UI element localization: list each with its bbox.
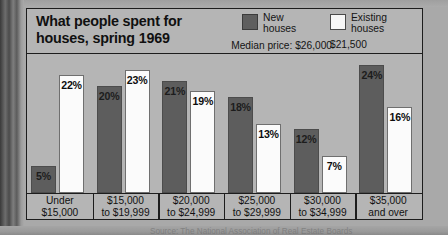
scan-edge-top xyxy=(0,0,448,7)
legend-existing-line-2: houses xyxy=(351,23,384,34)
legend-label-new: New houses xyxy=(263,12,296,35)
category-label-line-2: to $24,999 xyxy=(158,207,224,219)
category-label-line-2: to $29,999 xyxy=(224,207,290,219)
category-separator xyxy=(93,194,94,220)
category-label: $25,000to $29,999 xyxy=(224,194,290,220)
plot-area: 5%22%20%23%21%19%18%13%12%7%24%16% xyxy=(27,54,422,193)
median-price-existing: $21,500 xyxy=(330,39,367,50)
category-label-line-1: $25,000 xyxy=(238,195,275,206)
category-label-line-1: Under xyxy=(46,195,74,206)
chart-header: What people spent for houses, spring 196… xyxy=(27,9,422,54)
bar-group: 21%19% xyxy=(158,54,224,193)
category-label-line-1: $35,000 xyxy=(370,195,407,206)
scan-edge-left xyxy=(0,0,24,235)
bar-group: 24%16% xyxy=(355,54,421,193)
source-note: Source: The National Association of Real… xyxy=(150,227,446,235)
bar-value-label: 22% xyxy=(60,79,83,91)
bar-value-label: 12% xyxy=(295,133,318,145)
bar-value-label: 5% xyxy=(32,170,55,182)
bar-group: 20%23% xyxy=(93,54,159,193)
legend-existing-line-1: Existing xyxy=(351,12,387,23)
chart-legend: New houses Median price: $26,000 Existin… xyxy=(242,12,418,52)
bar: 20% xyxy=(97,86,122,193)
legend-new-line-2: houses xyxy=(263,23,296,34)
bar: 5% xyxy=(31,166,56,193)
chart-frame: What people spent for houses, spring 196… xyxy=(26,8,423,220)
bar-value-label: 24% xyxy=(360,69,383,81)
category-label: Under$15,000 xyxy=(27,194,93,220)
bar-value-label: 18% xyxy=(229,101,252,113)
category-label-line-1: $20,000 xyxy=(173,195,210,206)
legend-new-line-1: New xyxy=(263,12,284,23)
category-label-line-2: and over xyxy=(355,207,421,219)
bar-value-label: 19% xyxy=(191,95,214,107)
legend-label-existing: Existing houses xyxy=(351,12,387,35)
category-label: $30,000to $34,999 xyxy=(290,194,356,220)
category-separator xyxy=(290,194,291,220)
category-label-line-2: to $19,999 xyxy=(93,207,159,219)
bar: 18% xyxy=(228,97,253,193)
category-label: $20,000to $24,999 xyxy=(158,194,224,220)
legend-swatch-new-icon xyxy=(242,14,258,30)
bar-value-label: 23% xyxy=(126,74,149,86)
legend-swatch-existing-icon xyxy=(330,14,346,30)
bar-value-label: 21% xyxy=(163,85,186,97)
bar: 23% xyxy=(125,70,150,193)
bar: 24% xyxy=(359,65,384,193)
bar-value-label: 20% xyxy=(98,90,121,102)
title-line-1: What people spent for xyxy=(36,13,182,29)
category-separator xyxy=(224,194,225,220)
bar: 13% xyxy=(256,124,281,194)
category-label: $35,000and over xyxy=(355,194,421,220)
category-axis: Under$15,000$15,000to $19,999$20,000to $… xyxy=(27,193,422,219)
bar-group: 18%13% xyxy=(224,54,290,193)
category-separator xyxy=(355,194,356,220)
scanned-page: What people spent for houses, spring 196… xyxy=(0,0,448,235)
bar-group: 12%7% xyxy=(290,54,356,193)
bar: 7% xyxy=(322,156,347,193)
category-label-line-1: $30,000 xyxy=(304,195,341,206)
bar-value-label: 13% xyxy=(257,128,280,140)
bar: 22% xyxy=(59,75,84,193)
category-label-line-1: $15,000 xyxy=(107,195,144,206)
bar-value-label: 7% xyxy=(323,160,346,172)
category-label: $15,000to $19,999 xyxy=(93,194,159,220)
bar-value-label: 16% xyxy=(388,111,411,123)
bar: 19% xyxy=(190,91,215,193)
category-label-line-2: $15,000 xyxy=(27,207,93,219)
bar: 21% xyxy=(162,81,187,193)
bar: 12% xyxy=(294,129,319,193)
category-separator xyxy=(158,194,159,220)
bar: 16% xyxy=(387,107,412,193)
bar-group: 5%22% xyxy=(27,54,93,193)
category-label-line-2: to $34,999 xyxy=(290,207,356,219)
median-price-new: Median price: $26,000 xyxy=(172,40,332,51)
